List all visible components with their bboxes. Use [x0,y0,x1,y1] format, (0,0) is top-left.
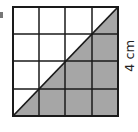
side-length-label: 4 cm [122,44,136,72]
grid-diagram [0,0,138,132]
